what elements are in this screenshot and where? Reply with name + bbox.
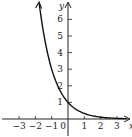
x-tick-label: −1 — [45, 121, 58, 131]
curve-arrow-head — [36, 2, 42, 9]
exponential-graph: −3−2−1123123456 y x 0 — [0, 0, 132, 137]
x-tick-label: 3 — [114, 121, 120, 131]
y-tick-label: 3 — [57, 64, 63, 74]
y-tick-label: 5 — [57, 31, 63, 41]
tick-labels: −3−2−1123123456 — [12, 14, 120, 131]
x-tick-label: 2 — [98, 121, 104, 131]
y-tick-label: 4 — [57, 48, 63, 58]
curve-series — [39, 3, 127, 119]
y-axis-label: y — [58, 1, 65, 11]
x-axis-label: x — [129, 121, 132, 131]
axes — [2, 2, 130, 136]
y-tick-label: 6 — [57, 14, 63, 24]
x-tick-label: −3 — [12, 121, 26, 131]
x-tick-label: 1 — [81, 121, 87, 131]
x-tick-label: −2 — [29, 121, 42, 131]
y-tick-label: 1 — [57, 97, 63, 107]
origin-label: 0 — [60, 121, 66, 131]
